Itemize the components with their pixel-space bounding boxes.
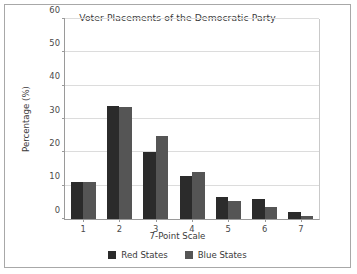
bar-group bbox=[216, 19, 241, 219]
bar-group bbox=[71, 19, 96, 219]
legend-swatch-icon bbox=[185, 251, 193, 259]
y-tick-label: 10 bbox=[49, 171, 60, 181]
bar-blue-states-3 bbox=[156, 136, 169, 219]
legend-item-red-states[interactable]: Red States bbox=[108, 250, 167, 260]
x-tick-mark bbox=[83, 219, 84, 222]
bar-red-states-6 bbox=[252, 199, 265, 219]
legend-swatch-icon bbox=[108, 251, 116, 259]
y-axis-label: Percentage (%) bbox=[21, 86, 31, 152]
bar-group bbox=[107, 19, 132, 219]
y-tick-label: 0 bbox=[55, 205, 60, 215]
legend-label: Blue States bbox=[198, 250, 247, 260]
y-tick-label: 60 bbox=[49, 5, 60, 15]
bar-series-container bbox=[65, 19, 319, 219]
bar-red-states-3 bbox=[143, 152, 156, 219]
bar-red-states-1 bbox=[71, 182, 84, 219]
bar-blue-states-1 bbox=[83, 182, 96, 219]
x-tick-mark bbox=[301, 219, 302, 222]
plot-area: 0102030405060 1234567 bbox=[64, 19, 320, 220]
x-tick-mark bbox=[265, 219, 266, 222]
y-tick-label: 40 bbox=[49, 71, 60, 81]
bar-red-states-5 bbox=[216, 197, 229, 219]
bar-blue-states-6 bbox=[265, 207, 278, 219]
legend-item-blue-states[interactable]: Blue States bbox=[185, 250, 247, 260]
bar-group bbox=[288, 19, 313, 219]
bar-blue-states-2 bbox=[119, 107, 132, 219]
bar-red-states-4 bbox=[180, 176, 193, 219]
y-tick-label: 20 bbox=[49, 138, 60, 148]
bar-red-states-2 bbox=[107, 106, 120, 219]
bar-group bbox=[180, 19, 205, 219]
chart-legend: Red StatesBlue States bbox=[5, 250, 350, 260]
bar-blue-states-4 bbox=[192, 172, 205, 219]
bar-group bbox=[143, 19, 168, 219]
x-tick-mark bbox=[156, 219, 157, 222]
x-axis-label: 7-Point Scale bbox=[5, 231, 350, 241]
bar-blue-states-7 bbox=[301, 216, 314, 219]
chart-figure: Voter Placements of the Democratic Party… bbox=[4, 4, 351, 268]
bar-red-states-7 bbox=[288, 212, 301, 219]
legend-label: Red States bbox=[121, 250, 167, 260]
x-tick-mark bbox=[192, 219, 193, 222]
bar-group bbox=[252, 19, 277, 219]
y-tick-label: 30 bbox=[49, 105, 60, 115]
x-tick-mark bbox=[119, 219, 120, 222]
y-tick-label: 50 bbox=[49, 38, 60, 48]
x-tick-mark bbox=[228, 219, 229, 222]
bar-blue-states-5 bbox=[228, 201, 241, 219]
